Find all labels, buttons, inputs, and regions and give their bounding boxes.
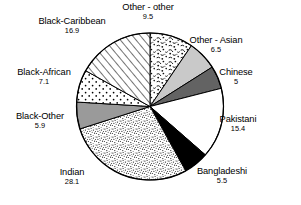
pie-slice-label-value: 6.5 <box>156 46 276 54</box>
pie-slice-label-name: Black-Other <box>0 111 100 121</box>
pie-slice-label: Other - Asian6.5 <box>156 35 276 54</box>
pie-slice-label-name: Other - other <box>88 2 208 12</box>
pie-slice-label: Bangladeshi5.5 <box>162 166 282 185</box>
pie-slice-label-name: Pakistani <box>178 114 298 124</box>
pie-slice-group <box>77 33 224 180</box>
pie-slice-label-value: 15.4 <box>178 125 298 133</box>
pie-slice-label: Pakistani15.4 <box>178 114 298 133</box>
pie-slice-label: Black-Other5.9 <box>0 111 100 130</box>
pie-slice-label-name: Indian <box>12 167 132 177</box>
pie-slice-label-name: Chinese <box>176 67 296 77</box>
pie-slice-label-name: Black-African <box>0 67 104 77</box>
pie-slice-label-name: Bangladeshi <box>162 166 282 176</box>
pie-slice-label: Indian28.1 <box>12 167 132 186</box>
pie-slice-label-value: 5 <box>176 78 296 86</box>
pie-slice-label-value: 28.1 <box>12 178 132 186</box>
pie-slice-label: Black-African7.1 <box>0 67 104 86</box>
pie-slice-label-value: 5.5 <box>162 177 282 185</box>
pie-slice-label-name: Black-Caribbean <box>12 16 132 26</box>
pie-slice-label-value: 5.9 <box>0 122 100 130</box>
pie-slice-label: Black-Caribbean16.9 <box>12 16 132 35</box>
pie-slice-label-value: 7.1 <box>0 78 104 86</box>
pie-slice-label: Chinese5 <box>176 67 296 86</box>
pie-chart: Other - other9.5Other - Asian6.5Chinese5… <box>0 0 301 205</box>
pie-slice-label-name: Other - Asian <box>156 35 276 45</box>
pie-slice-label-value: 16.9 <box>12 27 132 35</box>
